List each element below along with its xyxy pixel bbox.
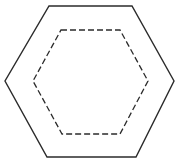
diagram-canvas <box>0 0 178 165</box>
inner-dashed-hexagon <box>33 30 148 134</box>
hexagon-diagram <box>0 0 178 165</box>
